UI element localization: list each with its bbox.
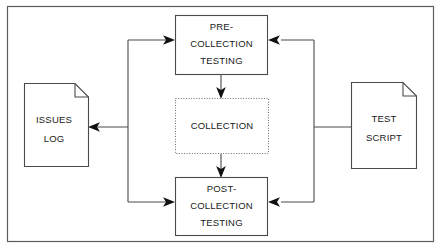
post-collection-testing-label-line1: POST- xyxy=(207,183,237,194)
arrowhead-to-post-collection-right xyxy=(268,197,280,207)
collection-label: COLLECTION xyxy=(191,120,254,131)
test-script-document-shape[interactable] xyxy=(352,83,417,169)
node-issues-log[interactable]: ISSUES LOG xyxy=(25,84,89,167)
node-test-script[interactable]: TEST SCRIPT xyxy=(352,83,417,169)
pre-collection-testing-label-line1: PRE- xyxy=(210,21,234,32)
test-script-label-line2: SCRIPT xyxy=(366,132,402,143)
node-post-collection-testing[interactable]: POST- COLLECTION TESTING xyxy=(176,178,268,236)
issues-log-label-line2: LOG xyxy=(44,133,65,144)
node-collection[interactable]: COLLECTION xyxy=(176,99,269,154)
edge-left-bus xyxy=(95,40,166,202)
test-script-label-line1: TEST xyxy=(371,113,396,124)
diagram-canvas: PRE- COLLECTION TESTING COLLECTION POST-… xyxy=(0,0,440,248)
pre-collection-testing-label-line3: TESTING xyxy=(200,55,243,66)
issues-log-label-line1: ISSUES xyxy=(36,114,72,125)
post-collection-testing-label-line2: COLLECTION xyxy=(190,200,253,211)
edge-right-bus xyxy=(281,40,351,202)
node-pre-collection-testing[interactable]: PRE- COLLECTION TESTING xyxy=(176,16,268,75)
edge-collection-to-post xyxy=(216,154,226,178)
pre-collection-testing-label-line2: COLLECTION xyxy=(190,38,253,49)
arrowhead-to-pre-collection-right xyxy=(268,35,280,45)
post-collection-testing-label-line3: TESTING xyxy=(200,217,243,228)
edge-pre-to-collection xyxy=(216,75,226,99)
process-flow-diagram: PRE- COLLECTION TESTING COLLECTION POST-… xyxy=(0,0,440,248)
